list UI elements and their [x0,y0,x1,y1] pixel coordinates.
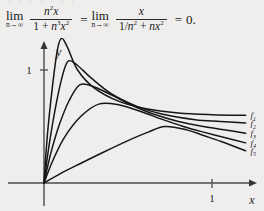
y-tick-label-1: 1 [26,64,32,76]
scanned-page: · · · · · · · lim n→∞ n2x 1 + n3x2 = lim… [0,0,264,211]
x-axis-arrowhead [249,180,257,187]
cutoff-text-line: · · · · · · · [8,0,256,3]
equals-sign-2: = [175,13,182,26]
curve-label-group: f1f2f3f4f5 [251,110,257,157]
curve-group [44,38,246,183]
limit-subscript-1: n→∞ [6,21,23,29]
fraction-1-numerator: n2x [41,6,61,19]
limit-subscript-2: n→∞ [92,21,109,29]
fraction-1: n2x 1 + n3x2 [30,6,72,32]
x-tick-label-1: 1 [209,192,215,204]
limit-result: 0. [186,13,196,26]
fraction-2: x 1/n2 + nx2 [116,6,167,32]
equals-sign-1: = [80,13,87,26]
x-axis-label: x [248,193,255,207]
curve-f2 [44,61,246,183]
display-equation: lim n→∞ n2x 1 + n3x2 = lim n→∞ x 1/n2 + … [6,6,200,32]
fraction-1-denominator: 1 + n3x2 [30,19,72,33]
limit-operator-1: lim n→∞ [6,9,23,29]
function-family-graph: 1 1 y x f1f2f3f4f5 [0,38,264,211]
fraction-2-numerator: x [136,6,147,19]
y-axis-arrowhead [41,41,48,49]
limit-operator-2: lim n→∞ [92,9,109,29]
fraction-2-denominator: 1/n2 + nx2 [116,19,167,33]
